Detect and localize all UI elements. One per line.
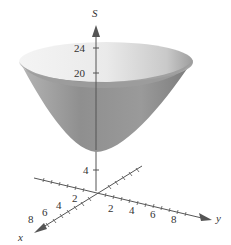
s-tick-label-24: 24 bbox=[74, 42, 86, 54]
x-axis-label: x bbox=[17, 231, 23, 243]
s-axis-label: S bbox=[92, 7, 98, 19]
x-tick-label-8: 8 bbox=[28, 213, 34, 225]
x-tick-label-6: 6 bbox=[42, 206, 48, 218]
s-axis-arrow-icon bbox=[92, 25, 100, 37]
y-tick-label-6: 6 bbox=[150, 208, 156, 220]
y-tick-label-8: 8 bbox=[171, 213, 177, 225]
x-tick-label-2: 2 bbox=[72, 192, 78, 204]
y-tick-label-2: 2 bbox=[108, 202, 114, 214]
s-tick-label-4: 4 bbox=[83, 164, 89, 176]
s-tick-label-20: 20 bbox=[74, 67, 86, 79]
bowl-surface bbox=[19, 42, 193, 152]
surface-plot: S 24 20 4 2 4 6 8 x 2 4 6 8 y bbox=[0, 0, 231, 245]
x-tick-label-4: 4 bbox=[56, 199, 62, 211]
x-axis bbox=[40, 166, 142, 229]
y-axis-label: y bbox=[215, 212, 221, 224]
y-axis-arrow-icon bbox=[199, 213, 212, 221]
y-tick-label-4: 4 bbox=[129, 204, 135, 216]
x-axis-arrow-icon bbox=[34, 223, 47, 233]
